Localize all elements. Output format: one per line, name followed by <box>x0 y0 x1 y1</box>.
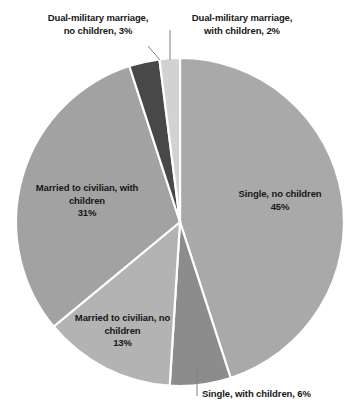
slice-label-single-with-children: Single, with children, 6% <box>202 388 354 401</box>
pie-chart: Dual-military marriage, no children, 3% … <box>0 0 361 410</box>
slice-label-married-civilian-with-children: Married to civilian, with children 31% <box>16 182 158 220</box>
leader-line-dual-no-children <box>148 46 160 60</box>
slice-label-dual-military-with-children: Dual-military marriage, with children, 2… <box>166 12 318 37</box>
slice-label-married-civilian-no-children: Married to civilian, no children 13% <box>55 312 190 350</box>
slice-label-single-no-children: Single, no children 45% <box>221 188 339 213</box>
slice-label-dual-military-no-children: Dual-military marriage, no children, 3% <box>22 12 174 37</box>
